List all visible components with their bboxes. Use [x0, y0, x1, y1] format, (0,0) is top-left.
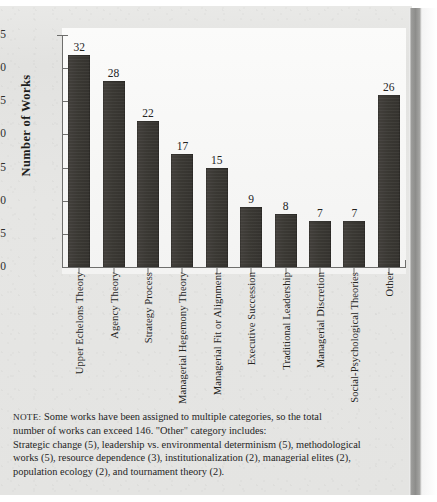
y-tick-label: 35	[0, 28, 6, 40]
y-tick-label: 30	[0, 61, 6, 73]
bar	[171, 154, 193, 267]
bar	[240, 207, 262, 267]
bar	[309, 221, 331, 267]
category-label-text: Upper Echelons Theory	[74, 272, 85, 374]
category-label: Agency Theory	[96, 272, 130, 408]
category-label-text: Executive Succession	[246, 272, 257, 365]
note-line-4: population ecology (2), and tournament t…	[13, 465, 398, 478]
bar	[68, 55, 90, 267]
bar-slot: 9	[234, 35, 268, 267]
y-tick-15: 15	[10, 168, 62, 169]
y-tick-label: 10	[0, 194, 6, 206]
bar-value-label: 9	[248, 193, 254, 205]
y-tick-5: 5	[10, 234, 62, 235]
bar	[206, 168, 228, 267]
category-label: Social-Psychological Theories	[337, 272, 371, 408]
bar-value-label: 17	[177, 140, 189, 152]
note-line-0: NOTE: Some works have been assigned to m…	[13, 410, 398, 424]
note-line-3: works (5), resource dependence (3), inst…	[13, 451, 398, 464]
category-label: Managerial Hegemony Theory	[165, 272, 199, 408]
category-label: Managerial Discretion	[303, 272, 337, 408]
bar-chart-figure: Number of Works 05101520253035 322822171…	[10, 14, 406, 400]
bar-slot: 17	[165, 35, 199, 267]
bar-slot: 8	[268, 35, 302, 267]
category-label: Managerial Fit or Alignment	[200, 272, 234, 408]
category-label: Executive Succession	[234, 272, 268, 408]
bar-value-label: 7	[317, 207, 323, 219]
y-axis-title: Number of Works	[19, 36, 34, 216]
y-tick-35: 35	[10, 35, 62, 36]
note-line-1: number of works can exceed 146. "Other" …	[13, 424, 398, 437]
category-label: Upper Echelons Theory	[62, 272, 96, 408]
bar-slot: 7	[337, 35, 371, 267]
page-edge-shadow	[409, 8, 422, 495]
bar-slot: 22	[131, 35, 165, 267]
bar-value-label: 8	[283, 200, 289, 212]
bar-series: 3228221715987726	[62, 35, 406, 267]
y-tick-label: 5	[0, 227, 6, 239]
y-tick-10: 10	[10, 201, 62, 202]
y-tick-20: 20	[10, 134, 62, 135]
y-tick-label: 15	[0, 161, 6, 173]
category-label: Other	[372, 272, 406, 408]
category-label-text: Social-Psychological Theories	[349, 272, 360, 403]
bar-slot: 28	[96, 35, 130, 267]
bar	[275, 214, 297, 267]
bar-slot: 7	[303, 35, 337, 267]
note-lead: NOTE:	[13, 412, 41, 422]
category-label: Strategy Process	[131, 272, 165, 408]
bar-value-label: 26	[383, 81, 395, 93]
note-text-0: Some works have been assigned to multipl…	[44, 411, 322, 422]
y-tick-label: 25	[0, 94, 6, 106]
bar-value-label: 22	[142, 107, 154, 119]
scanned-page: Number of Works 05101520253035 322822171…	[0, 0, 437, 502]
y-tick-label: 0	[0, 260, 6, 272]
bar	[343, 221, 365, 267]
y-tick-30: 30	[10, 68, 62, 69]
bar	[137, 121, 159, 267]
y-tick-0: 0	[10, 267, 62, 268]
bar-value-label: 32	[73, 41, 85, 53]
bar-slot: 26	[372, 35, 406, 267]
category-label-text: Managerial Fit or Alignment	[211, 272, 222, 395]
bar-value-label: 7	[352, 207, 358, 219]
category-label-text: Agency Theory	[108, 272, 119, 339]
bar-slot: 32	[62, 35, 96, 267]
category-label-text: Strategy Process	[142, 272, 153, 343]
bar-value-label: 15	[211, 154, 223, 166]
y-tick-25: 25	[10, 101, 62, 102]
x-axis-category-labels: Upper Echelons TheoryAgency TheoryStrate…	[62, 272, 406, 412]
category-label-text: Managerial Discretion	[314, 272, 325, 368]
page-edge-fade	[422, 8, 437, 495]
category-label-text: Traditional Leadership	[280, 272, 291, 370]
note-line-2: Strategic change (5), leadership vs. env…	[13, 438, 398, 451]
bar-slot: 15	[200, 35, 234, 267]
bar-value-label: 28	[108, 67, 120, 79]
bar	[378, 95, 400, 267]
bar	[103, 81, 125, 267]
y-tick-label: 20	[0, 127, 6, 139]
category-label-text: Managerial Hegemony Theory	[177, 272, 188, 404]
category-label-text: Other	[383, 272, 394, 296]
figure-note: NOTE: Some works have been assigned to m…	[13, 410, 398, 478]
category-label: Traditional Leadership	[268, 272, 302, 408]
